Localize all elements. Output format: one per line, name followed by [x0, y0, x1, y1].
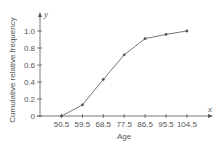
x-tick-label: 86.5 [137, 120, 153, 129]
y-tick-label: 0.2 [24, 95, 36, 104]
x-tick-label: 68.5 [96, 120, 112, 129]
y-tick-label: 0.4 [24, 78, 36, 87]
data-point-marker [60, 115, 63, 118]
x-tick-label: 77.5 [116, 120, 132, 129]
y-tick-label: 0.6 [24, 61, 36, 70]
data-point-marker [165, 33, 168, 36]
x-tick-label: 104.5 [177, 120, 198, 129]
y-axis: 00.20.40.60.81.0 [24, 12, 42, 121]
data-point-marker [102, 78, 105, 81]
x-axis: 50.559.568.577.586.595.5104.5 [37, 114, 213, 129]
x-axis-title: Age [117, 132, 132, 141]
y-tick-label: 0 [31, 112, 36, 121]
y-axis-arrow-icon [38, 12, 42, 17]
x-axis-arrow-icon [208, 114, 213, 118]
x-tick-label: 59.5 [75, 120, 91, 129]
y-tick-label: 1.0 [24, 27, 36, 36]
data-point-marker [123, 53, 126, 56]
x-tick-label: 95.5 [158, 120, 174, 129]
x-axis-variable: x [207, 104, 212, 114]
data-point-marker [186, 30, 189, 33]
y-axis-title: Cumulative relative frequency [8, 17, 17, 122]
y-tick-label: 0.8 [24, 44, 36, 53]
y-axis-variable: y [43, 9, 48, 19]
data-series [60, 30, 188, 118]
series-line [62, 31, 187, 116]
data-point-marker [144, 37, 147, 40]
ogive-chart: 00.20.40.60.81.0 50.559.568.577.586.595.… [0, 0, 223, 150]
data-point-marker [81, 104, 84, 107]
x-tick-label: 50.5 [54, 120, 70, 129]
